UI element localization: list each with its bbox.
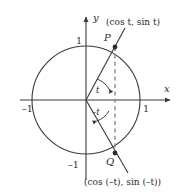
point-p-marker bbox=[113, 45, 118, 50]
point-q-marker bbox=[113, 151, 118, 156]
angle-t-label: t bbox=[96, 86, 99, 95]
point-p-label: P bbox=[104, 33, 111, 43]
point-p-coordinates-label: (cos t, sin t) bbox=[106, 18, 160, 27]
y-tick-label-positive-one: 1 bbox=[76, 36, 82, 46]
y-axis-label: y bbox=[93, 13, 99, 23]
point-q-coordinates-label: (cos (–t), sin (–t)) bbox=[84, 178, 161, 187]
x-tick-label-positive-one: 1 bbox=[143, 104, 149, 114]
y-tick-label-negative-one: –1 bbox=[68, 160, 79, 170]
unit-circle-figure: y x 1 –1 –1 1 P Q (cos t, sin t) (cos (–… bbox=[0, 0, 184, 194]
x-tick-label-negative-one: –1 bbox=[22, 104, 33, 114]
x-axis-label: x bbox=[164, 84, 170, 94]
point-q-label: Q bbox=[106, 157, 114, 167]
angle-negative-t-label: –t bbox=[92, 108, 100, 117]
figure-canvas bbox=[0, 0, 184, 194]
